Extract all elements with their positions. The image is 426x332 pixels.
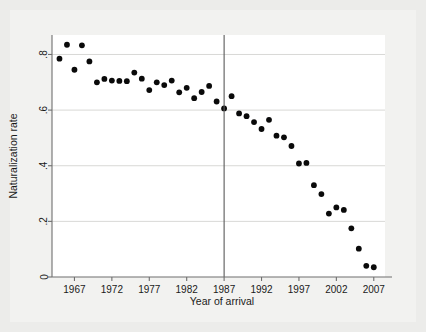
- figure-container: 196719721977198219871992199720022007 0.2…: [0, 0, 426, 332]
- x-tick-label-1977: 1977: [138, 284, 161, 295]
- data-point: [109, 78, 115, 84]
- data-point: [274, 133, 280, 139]
- data-point: [371, 264, 377, 270]
- data-point: [229, 93, 235, 99]
- data-point: [116, 78, 122, 84]
- y-tick-label-.4: .4: [39, 161, 50, 170]
- y-tick-label-.8: .8: [39, 50, 50, 59]
- x-tick-label-1982: 1982: [176, 284, 199, 295]
- data-point: [64, 42, 70, 48]
- data-point: [146, 87, 152, 93]
- scatter-plot: 196719721977198219871992199720022007 0.2…: [0, 0, 426, 332]
- data-point: [281, 134, 287, 140]
- x-tick-label-2002: 2002: [325, 284, 348, 295]
- data-point: [79, 42, 85, 48]
- y-tick-label-.6: .6: [39, 105, 50, 114]
- x-tick-label-2007: 2007: [363, 284, 386, 295]
- data-point: [363, 263, 369, 269]
- data-point: [206, 83, 212, 89]
- data-point: [191, 95, 197, 101]
- data-point: [348, 225, 354, 231]
- data-point: [94, 79, 100, 85]
- x-tick-label-1967: 1967: [63, 284, 86, 295]
- x-tick-label-1987: 1987: [213, 284, 236, 295]
- data-point: [72, 67, 78, 73]
- data-point: [266, 117, 272, 123]
- data-point: [161, 82, 167, 88]
- data-point: [296, 161, 302, 167]
- data-point: [333, 205, 339, 211]
- data-point: [169, 78, 175, 84]
- data-point: [236, 111, 242, 117]
- data-point: [304, 160, 310, 166]
- y-axis-ticks-group: 0.2.4.6.8: [39, 50, 53, 280]
- data-point: [101, 76, 107, 82]
- data-point: [139, 76, 145, 82]
- data-point: [184, 85, 190, 91]
- data-point: [289, 143, 295, 149]
- data-point: [259, 126, 265, 132]
- y-tick-label-0: 0: [39, 274, 50, 280]
- x-tick-label-1992: 1992: [250, 284, 273, 295]
- data-point: [57, 56, 63, 62]
- y-axis-title: Naturalization rate: [7, 113, 19, 198]
- data-point: [199, 89, 205, 95]
- x-tick-label-1972: 1972: [101, 284, 124, 295]
- data-point: [124, 78, 130, 84]
- data-point: [356, 246, 362, 252]
- data-point: [326, 211, 332, 217]
- data-point: [131, 70, 137, 76]
- data-point: [244, 113, 250, 119]
- data-point: [87, 59, 93, 65]
- plot-area-background: [52, 35, 385, 277]
- data-point: [318, 191, 324, 197]
- data-point: [311, 182, 317, 188]
- y-tick-label-.2: .2: [39, 217, 50, 226]
- x-axis-title: Year of arrival: [190, 295, 254, 307]
- data-point: [341, 207, 347, 213]
- x-tick-label-1997: 1997: [288, 284, 311, 295]
- data-point: [214, 99, 220, 105]
- data-point: [176, 89, 182, 95]
- data-point: [251, 119, 257, 125]
- x-axis-ticks-group: 196719721977198219871992199720022007: [63, 277, 385, 295]
- data-point: [154, 79, 160, 85]
